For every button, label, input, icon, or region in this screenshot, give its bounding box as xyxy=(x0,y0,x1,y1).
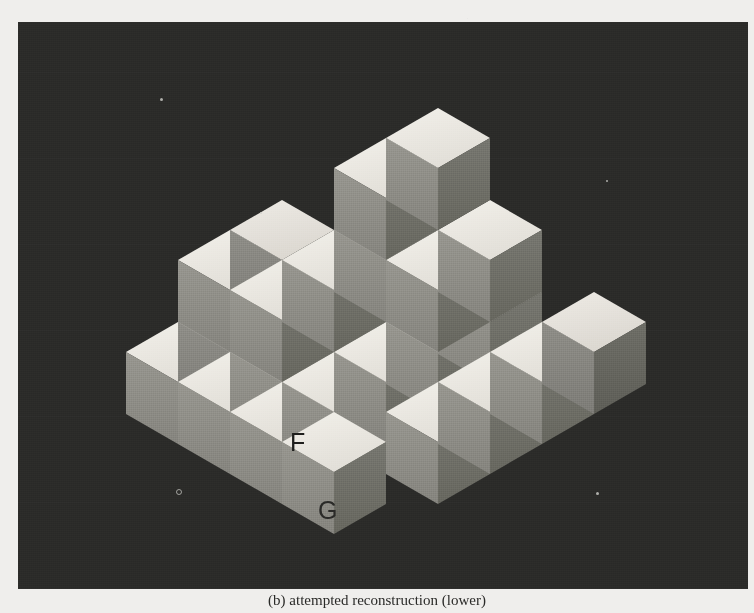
dust-speck xyxy=(606,180,608,182)
cube-stack-scene xyxy=(18,22,748,589)
dust-speck xyxy=(176,489,182,495)
dust-speck xyxy=(596,492,599,495)
figure-caption: (b) attempted reconstruction (lower) xyxy=(0,592,754,613)
dust-speck xyxy=(260,212,262,214)
photo-page: F G (b) attempted reconstruction (lower) xyxy=(0,0,754,613)
photograph xyxy=(18,22,748,589)
dust-speck xyxy=(160,98,163,101)
face-label-g: G xyxy=(318,498,338,523)
face-label-f: F xyxy=(290,430,306,455)
